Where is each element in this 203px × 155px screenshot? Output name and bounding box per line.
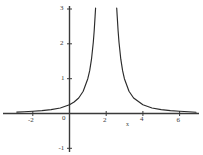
plot-canvas	[0, 0, 203, 155]
x-tick-label-4: 4	[140, 116, 144, 123]
y-tick-label-0: 0	[62, 115, 66, 122]
x-tick-label-6: 6	[177, 117, 181, 124]
y-tick-label-1: 1	[61, 75, 65, 82]
x-tick-label-neg2: -2	[28, 117, 34, 124]
y-tick-label-neg1: -1	[59, 145, 65, 152]
x-axis-title: x	[126, 121, 129, 127]
curve-left-branch	[17, 8, 96, 112]
y-tick-label-3: 3	[60, 5, 64, 12]
curve-right-branch	[117, 8, 196, 112]
y-tick-label-2: 2	[60, 40, 64, 47]
x-tick-label-2: 2	[103, 117, 107, 124]
plot-figure: 3 2 1 0 -1 -2 2 4 6 x	[0, 0, 203, 155]
